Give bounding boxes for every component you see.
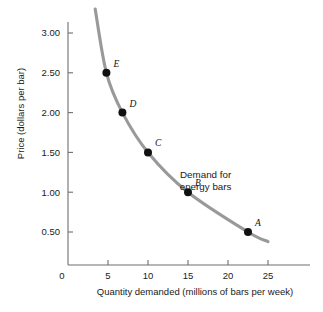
demand-curve-path: [95, 9, 268, 241]
y-axis-title: Price (dollars per bar): [15, 68, 26, 159]
y-tick-label: 1.00: [42, 187, 61, 198]
x-axis-title: Quantity demanded (millions of bars per …: [97, 286, 293, 297]
demand-curve-chart: 0.501.001.502.002.503.00 510152025 0 ABC…: [0, 0, 323, 312]
y-tick-label: 2.50: [42, 67, 61, 78]
data-point-label-a: A: [254, 218, 261, 228]
data-point-c: [144, 148, 152, 156]
annotation-line-1: Demand for: [180, 169, 232, 180]
y-tick-label: 1.50: [42, 147, 61, 158]
data-point-d: [118, 109, 126, 117]
x-tick-label: 20: [223, 270, 234, 281]
y-tick-label: 3.00: [42, 27, 61, 38]
x-tick-label: 25: [263, 270, 274, 281]
data-point-e: [102, 69, 110, 77]
origin-label: 0: [59, 270, 64, 281]
x-tick-label: 15: [183, 270, 194, 281]
axis-titles: Quantity demanded (millions of bars per …: [15, 68, 293, 297]
data-point-label-d: D: [128, 99, 136, 109]
y-tick-label: 2.00: [42, 107, 61, 118]
data-point-label-e: E: [112, 59, 119, 69]
annotation-line-2: energy bars: [180, 181, 232, 192]
data-point-label-c: C: [155, 138, 162, 148]
x-tick-label: 5: [105, 270, 110, 281]
x-tick-label: 10: [143, 270, 154, 281]
chart-figure: 0.501.001.502.002.503.00 510152025 0 ABC…: [0, 0, 323, 312]
x-axis-ticks: 510152025: [105, 260, 273, 281]
y-tick-label: 0.50: [42, 226, 61, 237]
data-points: ABCDE: [102, 59, 261, 236]
origin-label-group: 0: [59, 270, 64, 281]
demand-curve-label: Demand forenergy bars: [180, 169, 232, 192]
demand-curve-line: [95, 9, 268, 241]
data-point-a: [244, 228, 252, 236]
curve-annotations: Demand forenergy bars: [180, 169, 232, 192]
